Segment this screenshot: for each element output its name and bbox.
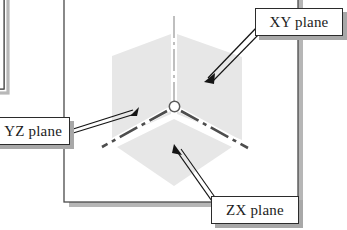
yz-plane-callout-label: YZ plane <box>4 124 62 139</box>
xy-plane-callout[interactable]: XY plane <box>255 8 343 36</box>
yz-plane-callout[interactable]: YZ plane <box>0 117 70 145</box>
zx-plane-callout-label: ZX plane <box>226 203 284 218</box>
figure-canvas: XY plane YZ plane ZX plane <box>0 0 347 230</box>
adjacent-figure-fragment <box>0 0 8 93</box>
zx-plane-callout[interactable]: ZX plane <box>211 196 299 224</box>
origin-circle-icon <box>169 101 179 111</box>
xy-plane-callout-label: XY plane <box>270 15 329 30</box>
